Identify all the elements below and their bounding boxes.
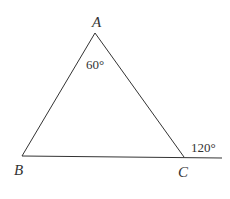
vertex-label-c: C [178, 164, 189, 180]
vertex-label-b: B [14, 162, 23, 178]
side-bc-extended [22, 156, 222, 158]
triangle-diagram: A 60° B C 120° [0, 0, 230, 199]
exterior-angle-c-label: 120° [191, 140, 216, 155]
side-ac [95, 33, 184, 157]
angle-a-label: 60° [86, 57, 104, 72]
vertex-label-a: A [91, 14, 102, 30]
side-ab [22, 33, 95, 156]
